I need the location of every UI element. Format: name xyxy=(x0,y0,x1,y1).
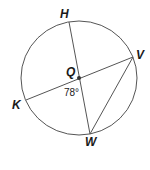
circle-diagram: H V K W Q 78° xyxy=(0,0,150,170)
label-q: Q xyxy=(66,65,76,79)
center-point-q xyxy=(77,76,81,80)
label-k: K xyxy=(12,98,22,112)
label-w: W xyxy=(85,135,98,149)
angle-label: 78° xyxy=(64,87,79,98)
chord-vw xyxy=(90,57,133,134)
label-h: H xyxy=(60,7,69,21)
label-v: V xyxy=(136,48,145,62)
